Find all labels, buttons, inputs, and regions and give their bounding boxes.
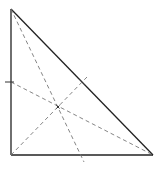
median-from-bottom-left bbox=[11, 77, 87, 155]
triangle-diagram bbox=[0, 0, 161, 170]
triangle-medians bbox=[11, 9, 153, 162]
median-from-bottom-right bbox=[11, 82, 153, 155]
median-from-top bbox=[11, 9, 84, 162]
